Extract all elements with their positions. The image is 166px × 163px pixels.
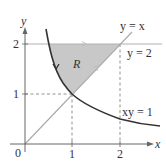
label-xy-equals-1: xy = 1: [122, 105, 153, 119]
y-tick-1: 1: [13, 87, 19, 101]
y-axis-arrow-icon: [23, 27, 28, 34]
label-y-equals-2: y = 2: [127, 46, 152, 60]
x-axis-arrow-icon: [147, 142, 154, 147]
double-integral-region-figure: y x 0 1 2 1 2 y = x y = 2 xy = 1 R: [0, 0, 166, 163]
figure-svg: y x 0 1 2 1 2 y = x y = 2 xy = 1 R: [0, 0, 166, 163]
region-r: [49, 44, 120, 94]
region-label: R: [72, 57, 81, 71]
origin-label: 0: [15, 146, 21, 160]
x-tick-1: 1: [69, 147, 75, 161]
label-y-equals-x: y = x: [120, 19, 145, 33]
x-axis-label: x: [154, 137, 161, 151]
x-tick-2: 2: [117, 147, 123, 161]
y-axis-label: y: [20, 14, 27, 28]
y-tick-2: 2: [13, 37, 19, 51]
